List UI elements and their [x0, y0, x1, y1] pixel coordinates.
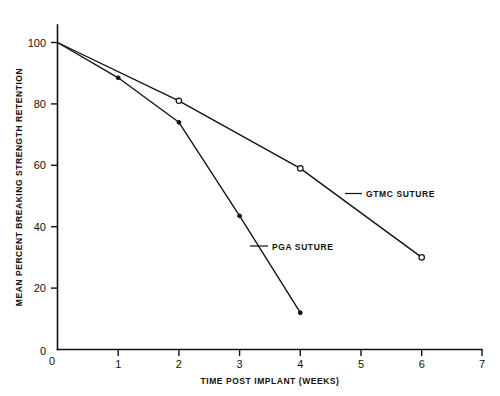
x-tick-label-2: 2: [176, 358, 182, 370]
x-tick-label-5: 5: [358, 358, 364, 370]
y-tick-label-60: 60: [34, 159, 46, 171]
x-tick-label-1: 1: [115, 358, 121, 370]
pga-point-week1: [116, 76, 120, 80]
y-tick-label-80: 80: [34, 98, 46, 110]
gtmc-suture-label: GTMC SUTURE: [366, 189, 435, 199]
x-axis-title: TIME POST IMPLANT (WEEKS): [201, 376, 340, 386]
x-tick-label-7: 7: [479, 358, 485, 370]
pga-point-week4: [298, 311, 302, 315]
x-tick-label-3: 3: [237, 358, 243, 370]
x-tick-label-0: 0: [49, 355, 55, 367]
y-tick-label-100: 100: [28, 37, 46, 49]
x-tick-label-4: 4: [297, 358, 303, 370]
gtmc-point-week6: [419, 255, 424, 260]
y-tick-label-20: 20: [34, 282, 46, 294]
gtmc-point-week2: [176, 98, 181, 103]
suture-strength-retention-chart: 100 80 60 40 20 0 0 1 2 3 4 5 6 7 TIME P…: [0, 0, 500, 396]
pga-point-week2: [177, 120, 181, 124]
pga-point-week3: [238, 214, 242, 218]
y-tick-label-0: 0: [40, 345, 46, 357]
y-axis-title: MEAN PERCENT BREAKING STRENGTH RETENTION: [14, 68, 24, 306]
y-tick-label-40: 40: [34, 221, 46, 233]
x-tick-label-6: 6: [419, 358, 425, 370]
pga-suture-label: PGA SUTURE: [272, 242, 333, 252]
gtmc-point-week4: [298, 166, 303, 171]
